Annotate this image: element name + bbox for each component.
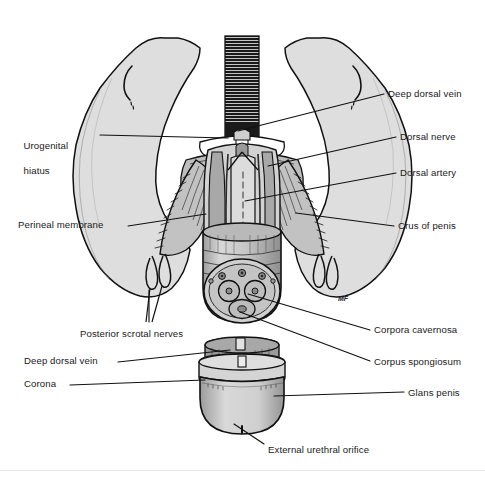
perineum-illustration-svg xyxy=(0,0,485,478)
label-urogenital-hiatus: Urogenital hiatus xyxy=(18,128,68,178)
label-urogenital-hiatus-line1: Urogenital xyxy=(24,140,69,151)
label-dorsal-nerve: Dorsal nerve xyxy=(400,131,456,143)
right-thigh-mass xyxy=(285,38,412,297)
leader-glans-penis xyxy=(274,392,404,396)
label-perineal-membrane: Perineal membrane xyxy=(18,219,103,231)
label-deep-dorsal-vein-upper: Deep dorsal vein xyxy=(388,88,462,100)
label-posterior-scrotal-nerves: Posterior scrotal nerves xyxy=(80,328,183,340)
label-corpora-cavernosa: Corpora cavernosa xyxy=(374,324,457,336)
leader-corona xyxy=(70,380,205,385)
anatomical-figure xyxy=(0,0,485,478)
shaft-cut-face xyxy=(204,259,280,323)
penis-shaft-cross-section xyxy=(203,223,281,323)
label-dorsal-artery: Dorsal artery xyxy=(400,167,456,179)
label-corona: Corona xyxy=(24,378,56,390)
artist-signature: MF xyxy=(338,295,348,302)
label-corpus-spongiosum: Corpus spongiosum xyxy=(374,356,461,368)
label-crus-of-penis: Crus of penis xyxy=(398,220,456,232)
label-urogenital-hiatus-line2: hiatus xyxy=(24,165,50,176)
label-glans-penis: Glans penis xyxy=(408,387,460,399)
label-deep-dorsal-vein-lower: Deep dorsal vein xyxy=(24,355,98,367)
left-thigh-mass xyxy=(73,38,200,297)
label-external-urethral-orifice: External urethral orifice xyxy=(268,444,369,456)
